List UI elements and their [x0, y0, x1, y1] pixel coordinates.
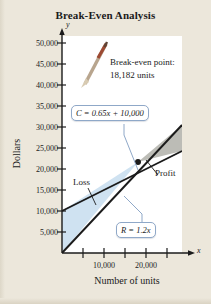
break-even-analysis-figure: Break-Even Analysis: [0, 0, 211, 304]
y-tick-label: 15,000: [12, 186, 58, 195]
y-axis-title: Dollars: [11, 124, 22, 184]
x-axis-title: Number of units: [62, 275, 192, 286]
cost-equation-callout: C = 0.65x + 10,000: [71, 105, 149, 121]
revenue-equation-callout: R = 1.2x: [116, 222, 156, 238]
y-tick-label: 40,000: [12, 81, 58, 90]
y-tick-label: 10,000: [12, 207, 58, 216]
profit-region: [138, 125, 182, 162]
break-even-point-marker: [135, 159, 141, 165]
x-axis-arrow: [188, 250, 195, 255]
y-tick-label: 50,000: [12, 39, 58, 48]
profit-region-label: Profit: [155, 168, 176, 178]
loss-region: [62, 162, 138, 253]
plot-panel: [62, 36, 182, 253]
x-axis-variable-label: x: [197, 246, 201, 255]
plot-area-graphics: [62, 36, 182, 253]
y-tick-label: 35,000: [12, 102, 58, 111]
break-even-annotation-line2: 18,182 units: [110, 70, 155, 81]
y-tick-label: 5,000: [12, 228, 58, 237]
y-tick-label: 45,000: [12, 60, 58, 69]
loss-region-label: Loss: [73, 177, 90, 187]
page-edge-shadow-left: [0, 0, 5, 304]
y-axis-variable-label: y: [66, 20, 70, 29]
x-tick-label: 10,000: [93, 261, 115, 270]
y-axis-arrow: [59, 28, 64, 35]
break-even-annotation-line1: Break-even point:: [110, 57, 175, 68]
x-tick-label: 20,000: [135, 261, 157, 270]
